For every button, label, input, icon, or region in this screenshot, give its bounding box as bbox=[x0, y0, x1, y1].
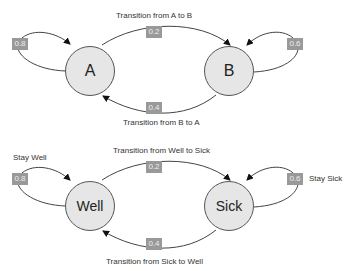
probability-box-sick-well: 0.4 bbox=[146, 238, 162, 250]
state-label: Sick bbox=[216, 198, 242, 214]
state-label: Well bbox=[77, 198, 104, 214]
state-label: B bbox=[224, 62, 235, 80]
probability-box-a-a: 0.8 bbox=[12, 38, 28, 50]
edge-label-b-a: Transition from B to A bbox=[123, 118, 200, 127]
edge-label-sick-well: Transition from Sick to Well bbox=[106, 257, 203, 266]
probability-box-b-b: 0.6 bbox=[287, 38, 303, 50]
probability-box-a-b: 0.2 bbox=[146, 26, 162, 38]
probability-box-sick-sick: 0.6 bbox=[287, 173, 303, 185]
state-label: A bbox=[85, 62, 96, 80]
edge-label-stay-sick: Stay Sick bbox=[309, 174, 342, 183]
state-node-well: Well bbox=[65, 181, 115, 231]
probability-box-b-a: 0.4 bbox=[146, 102, 162, 114]
edge-label-stay-well: Stay Well bbox=[13, 153, 47, 162]
edge-label-well-sick: Transition from Well to Sick bbox=[113, 146, 210, 155]
state-node-sick: Sick bbox=[204, 181, 254, 231]
edge-label-a-b: Transition from A to B bbox=[116, 11, 192, 20]
probability-box-well-well: 0.8 bbox=[12, 173, 28, 185]
state-node-a: A bbox=[65, 46, 115, 96]
state-node-b: B bbox=[204, 46, 254, 96]
probability-box-well-sick: 0.2 bbox=[146, 161, 162, 173]
